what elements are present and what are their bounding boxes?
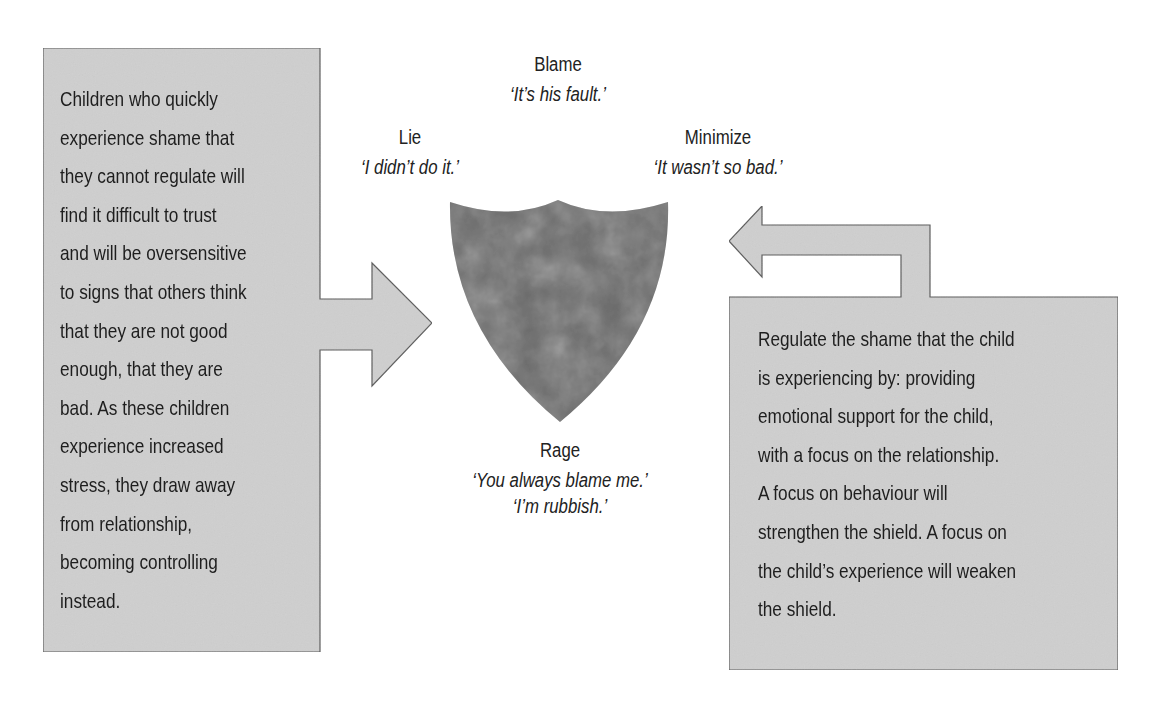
- left-box-line: from relationship,: [60, 505, 247, 544]
- left-box-line: Children who quickly: [60, 80, 247, 119]
- left-box-line: experience increased: [60, 427, 247, 466]
- left-box-line: find it difficult to trust: [60, 196, 247, 235]
- left-box-line: enough, that they are: [60, 350, 247, 389]
- right-box-text: Regulate the shame that the child is exp…: [758, 320, 1016, 629]
- left-box-line: stress, they draw away: [60, 466, 247, 505]
- left-box-line: instead.: [60, 582, 247, 621]
- left-box-line: that they are not good: [60, 312, 247, 351]
- right-box-line: with a focus on the relationship.: [758, 436, 1016, 475]
- left-box-line: bad. As these children: [60, 389, 247, 428]
- label-rage-quote-1: ‘You always blame me.’: [472, 467, 648, 493]
- label-blame-quote: ‘It’s his fault.’: [510, 81, 606, 107]
- right-box-line: emotional support for the child,: [758, 397, 1016, 436]
- label-rage-quote-2: ‘I’m rubbish.’: [472, 493, 648, 519]
- label-minimize-quote: ‘It wasn’t so bad.’: [654, 154, 783, 180]
- left-box-line: they cannot regulate will: [60, 157, 247, 196]
- label-blame-title: Blame: [510, 47, 606, 81]
- left-box-line: becoming controlling: [60, 543, 247, 582]
- right-box-line: the child’s experience will weaken: [758, 552, 1016, 591]
- label-blame: Blame ‘It’s his fault.’: [510, 47, 606, 107]
- right-box-line: is experiencing by: providing: [758, 359, 1016, 398]
- shield-icon: [450, 200, 668, 422]
- label-lie-title: Lie: [361, 120, 459, 154]
- left-box-line: and will be oversensitive: [60, 234, 247, 273]
- left-box-line: to signs that others think: [60, 273, 247, 312]
- label-lie-quote: ‘I didn’t do it.’: [361, 154, 459, 180]
- left-box-line: experience shame that: [60, 119, 247, 158]
- label-minimize: Minimize ‘It wasn’t so bad.’: [654, 120, 783, 180]
- label-lie: Lie ‘I didn’t do it.’: [361, 120, 459, 180]
- label-rage-title: Rage: [472, 433, 648, 467]
- right-box-line: strengthen the shield. A focus on: [758, 513, 1016, 552]
- label-rage: Rage ‘You always blame me.’ ‘I’m rubbish…: [472, 433, 648, 519]
- left-box-text: Children who quickly experience shame th…: [60, 80, 247, 620]
- right-box-line: A focus on behaviour will: [758, 474, 1016, 513]
- right-box-line: Regulate the shame that the child: [758, 320, 1016, 359]
- label-minimize-title: Minimize: [654, 120, 783, 154]
- right-box-line: the shield.: [758, 590, 1016, 629]
